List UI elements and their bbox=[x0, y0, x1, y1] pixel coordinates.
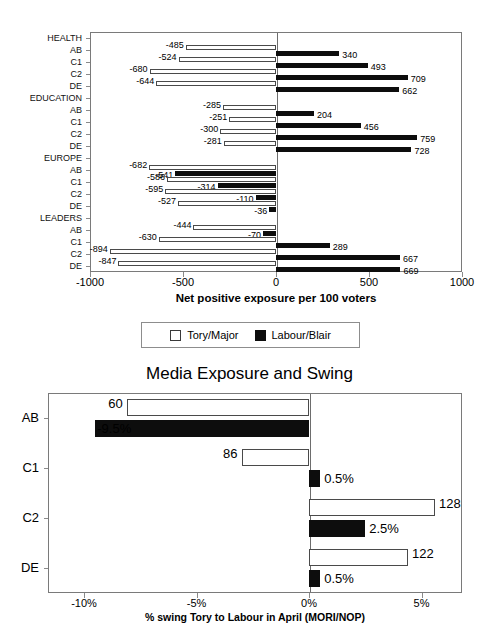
chart1-category-label: C2 bbox=[70, 129, 82, 139]
media-exposure-and-swing-chart: Media Exposure and Swing ABC1C2DE 60-9.5… bbox=[0, 360, 499, 627]
chart2-bar-exposure bbox=[127, 399, 309, 416]
chart1-bar-labour bbox=[218, 183, 276, 188]
chart2-x-tick bbox=[309, 593, 310, 598]
chart1-bar-tory bbox=[179, 57, 276, 62]
chart1-group-label: EDUCATION bbox=[30, 93, 82, 103]
chart2-x-axis-title: % swing Tory to Labour in April (MORI/NO… bbox=[48, 611, 462, 623]
chart1-bar-tory bbox=[118, 261, 276, 266]
chart1-x-tick-label: -500 bbox=[172, 276, 194, 288]
chart1-bar-labour bbox=[276, 63, 368, 68]
chart1-y-tick bbox=[86, 218, 90, 219]
chart1-zero-axis bbox=[277, 33, 278, 271]
chart1-x-tick bbox=[183, 272, 184, 277]
chart2-x-tick-label: 5% bbox=[414, 597, 430, 609]
chart1-category-label: DE bbox=[69, 81, 82, 91]
chart1-category-label: C2 bbox=[70, 189, 82, 199]
legend-label-labour: Labour/Blair bbox=[272, 329, 331, 341]
chart1-category-label: AB bbox=[70, 225, 82, 235]
chart1-y-tick bbox=[86, 110, 90, 111]
chart1-x-tick bbox=[369, 272, 370, 277]
chart1-bar-label-tory: -682 bbox=[129, 161, 147, 170]
chart1-group-label: EUROPE bbox=[44, 153, 82, 163]
chart1-bar-labour bbox=[276, 147, 411, 152]
chart1-category-label: C1 bbox=[70, 57, 82, 67]
chart2-x-tick-label: 0% bbox=[301, 597, 317, 609]
chart1-y-tick bbox=[86, 50, 90, 51]
chart1-bar-labour bbox=[276, 255, 400, 260]
chart1-bar-label-labour: 340 bbox=[342, 51, 357, 60]
chart2-y-tick bbox=[44, 468, 48, 469]
chart2-y-tick bbox=[44, 518, 48, 519]
legend-label-tory: Tory/Major bbox=[187, 329, 238, 341]
media-exposure-by-issue-chart: HEALTHABC1C2DEEDUCATIONABC1C2DEEUROPEABC… bbox=[0, 0, 499, 360]
chart1-bar-tory bbox=[229, 117, 276, 122]
chart2-x-tick-label: -10% bbox=[71, 597, 97, 609]
chart1-bar-labour bbox=[269, 207, 276, 212]
chart1-group-label: HEALTH bbox=[47, 33, 82, 43]
chart1-y-tick bbox=[86, 242, 90, 243]
chart2-bar-label-exposure: 86 bbox=[223, 447, 237, 461]
legend-swatch-labour-icon bbox=[255, 330, 266, 341]
chart1-bar-labour bbox=[256, 195, 276, 200]
chart2-category-label: DE bbox=[21, 561, 39, 575]
chart1-bar-label-labour: 456 bbox=[364, 123, 379, 132]
chart1-y-tick bbox=[86, 182, 90, 183]
chart1-bar-tory bbox=[186, 45, 276, 50]
chart1-bar-tory bbox=[150, 69, 276, 74]
chart1-bar-label-labour: 662 bbox=[402, 87, 417, 96]
chart1-bar-labour bbox=[263, 231, 276, 236]
chart1-bar-label-tory: -285 bbox=[203, 101, 221, 110]
chart1-bar-tory bbox=[167, 177, 276, 182]
chart1-category-label: DE bbox=[69, 201, 82, 211]
chart2-x-tick-label: -5% bbox=[187, 597, 207, 609]
chart1-y-tick bbox=[86, 230, 90, 231]
chart1-bar-label-labour: 204 bbox=[317, 111, 332, 120]
chart1-category-label: C1 bbox=[70, 177, 82, 187]
chart1-y-tick bbox=[86, 122, 90, 123]
chart1-y-tick bbox=[86, 170, 90, 171]
chart1-bar-tory bbox=[223, 105, 276, 110]
chart1-bar-labour bbox=[276, 267, 400, 272]
chart2-category-labels: ABC1C2DE bbox=[0, 393, 44, 593]
chart1-bar-label-tory: -300 bbox=[200, 125, 218, 134]
chart1-group-label: LEADERS bbox=[40, 213, 82, 223]
chart2-bar-swing bbox=[309, 470, 320, 487]
chart1-y-tick bbox=[86, 62, 90, 63]
chart1-category-labels: HEALTHABC1C2DEEDUCATIONABC1C2DEEUROPEABC… bbox=[0, 32, 86, 272]
chart1-x-tick bbox=[462, 272, 463, 277]
chart1-x-axis-title: Net positive exposure per 100 voters bbox=[90, 292, 462, 304]
chart1-bar-tory bbox=[220, 129, 276, 134]
chart2-y-tick bbox=[44, 568, 48, 569]
chart2-bar-swing bbox=[309, 520, 365, 537]
chart2-bar-label-exposure: 122 bbox=[412, 547, 434, 561]
chart2-category-label: C1 bbox=[22, 461, 39, 475]
chart1-bar-label-labour: 667 bbox=[403, 255, 418, 264]
chart1-bar-label-tory: -894 bbox=[90, 245, 108, 254]
chart1-y-tick bbox=[86, 254, 90, 255]
chart1-bar-label-labour: -36 bbox=[254, 207, 267, 216]
chart1-y-tick bbox=[86, 158, 90, 159]
chart2-category-label: AB bbox=[22, 411, 39, 425]
chart1-bar-label-tory: -527 bbox=[158, 197, 176, 206]
chart1-x-tick-label: -1000 bbox=[76, 276, 104, 288]
chart1-bar-tory bbox=[110, 249, 276, 254]
chart1-bar-label-tory: -485 bbox=[166, 41, 184, 50]
chart1-bar-label-tory: -251 bbox=[209, 113, 227, 122]
chart2-bar-exposure bbox=[309, 549, 408, 566]
chart1-bar-label-labour: 709 bbox=[411, 75, 426, 84]
chart1-bar-label-labour: 759 bbox=[420, 135, 435, 144]
chart2-bar-swing bbox=[309, 570, 320, 587]
chart1-x-tick-labels: -1000-50005001000 bbox=[0, 276, 499, 290]
chart1-y-tick bbox=[86, 194, 90, 195]
chart1-x-tick-label: 1000 bbox=[450, 276, 474, 288]
chart2-bar-label-exposure: 128 bbox=[439, 497, 461, 511]
chart1-bar-tory bbox=[159, 237, 276, 242]
chart2-x-tick bbox=[197, 593, 198, 598]
chart2-x-tick bbox=[422, 593, 423, 598]
chart2-bar-label-swing: 2.5% bbox=[369, 522, 399, 536]
chart1-x-tick-label: 0 bbox=[273, 276, 279, 288]
chart1-category-label: AB bbox=[70, 45, 82, 55]
chart1-bar-tory bbox=[165, 189, 276, 194]
chart1-bar-label-labour: 728 bbox=[414, 147, 429, 156]
chart2-bar-label-exposure: 60 bbox=[108, 397, 122, 411]
